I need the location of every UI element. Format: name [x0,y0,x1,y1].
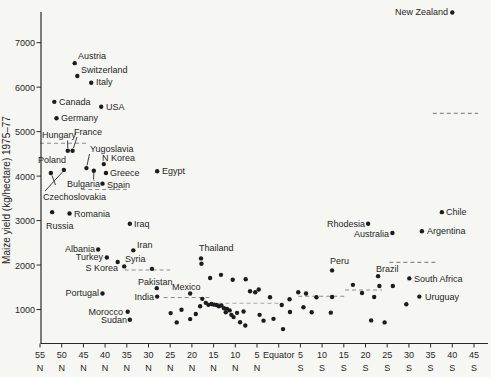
data-point-usa [99,105,103,109]
x-axis-hemisphere-label: N [189,363,196,373]
data-point-egypt [155,169,159,173]
x-axis-tick-label: 30 [404,350,414,360]
x-axis-tick-label: 35 [426,350,436,360]
data-point [219,273,223,277]
point-label-russia: Russia [46,221,74,231]
data-point-south-africa [407,276,411,280]
x-axis-hemisphere-label: S [428,363,434,373]
data-point [369,318,373,322]
x-axis-hemisphere-label: S [341,363,347,373]
data-point [288,310,292,314]
point-label-usa: USA [106,102,125,112]
data-point [271,317,275,321]
x-axis-tick-label: 5 [254,350,259,360]
x-axis-hemisphere-label: N [145,363,152,373]
y-axis-tick-label: 3000 [15,216,35,226]
data-point [241,309,245,313]
data-point-hungary [66,149,70,153]
data-point [280,303,284,307]
point-label-greece: Greece [110,168,140,178]
point-label-austria: Austria [78,51,106,61]
data-point [244,277,248,281]
data-point [372,295,376,299]
data-point [268,295,272,299]
leader-line-yugoslavia [87,154,90,166]
data-point-france [70,149,74,153]
data-point-russia [50,210,54,214]
data-point [198,304,202,308]
data-point-bulgaria [92,169,96,173]
data-point [377,284,381,288]
data-point [360,291,364,295]
data-point [287,297,291,301]
data-point-czechoslovakia [62,168,66,172]
x-axis-tick-label: 15 [339,350,349,360]
data-point-yugoslavia [84,166,88,170]
point-label-chile: Chile [446,207,467,217]
point-label-france: France [74,127,102,137]
x-axis-tick-label: 45 [78,350,88,360]
data-point-italy [89,81,93,85]
data-point [391,284,395,288]
data-point-austria [73,61,77,65]
data-point-india [155,294,159,298]
data-point [230,278,234,282]
point-label-czechoslovakia: Czechoslovakia [43,192,106,202]
x-axis-hemisphere-label: N [167,363,174,373]
point-label-mexico: Mexico [172,282,201,292]
data-point [382,320,386,324]
x-axis-tick-label: 15 [209,350,219,360]
x-axis-hemisphere-label: N [102,363,109,373]
data-point [175,320,179,324]
data-point-poland [49,171,53,175]
data-point-sudan [128,318,132,322]
maize-yield-scatter-chart: Maize yield (kg/hectare) 1975–77 1000200… [0,0,491,377]
point-label-italy: Italy [96,77,113,87]
data-point-canada [52,100,56,104]
x-axis-hemisphere-label: S [319,363,325,373]
data-point [188,317,192,321]
x-axis-tick-label: 20 [360,350,370,360]
data-point [199,262,203,266]
x-axis-tick-label: 10 [230,350,240,360]
data-point-germany [54,116,58,120]
equator-label: Equator [263,350,295,360]
data-point-s-korea [122,264,126,268]
point-label-south-africa: South Africa [414,274,463,284]
point-label-switzerland: Switzerland [81,65,128,75]
x-axis-hemisphere-label: S [406,363,412,373]
x-axis-hemisphere-label: S [449,363,455,373]
data-point [330,295,334,299]
data-point [227,308,231,312]
data-point [200,297,204,301]
point-label-hungary: Hungary [42,130,77,140]
data-point-turkey [105,255,109,259]
point-label-argentina: Argentina [427,226,466,236]
x-axis-tick-label: 50 [57,350,67,360]
y-axis-tick-label: 7000 [15,38,35,48]
data-point-argentina [420,229,424,233]
data-point [168,311,172,315]
point-label-poland: Poland [38,155,66,165]
point-label-thailand: Thailand [199,243,234,253]
point-labels-group: New ZealandAustriaSwitzerlandItalyCanada… [38,7,467,325]
data-point-iran [131,248,135,252]
point-label-turkey: Turkey [76,252,104,262]
data-point [261,318,265,322]
data-point [208,276,212,280]
x-axis-hemisphere-label: N [124,363,131,373]
y-axis-tick-label: 5000 [15,127,35,137]
data-point-romania [67,211,71,215]
data-point [314,295,318,299]
data-point-spain [100,181,104,185]
leader-line-czechoslovakia [45,172,63,191]
data-point [231,315,235,319]
data-point [238,320,242,324]
data-point-greece [104,171,108,175]
x-axis-tick-label: 40 [447,350,457,360]
data-point [257,313,261,317]
axis-lines [41,12,488,344]
data-point [281,327,285,331]
data-point [329,310,333,314]
point-label-canada: Canada [59,97,91,107]
